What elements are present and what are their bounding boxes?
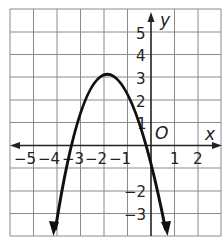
x-tick: 2 (193, 150, 203, 168)
x-tick: −5 (14, 150, 36, 168)
y-tick: 2 (136, 93, 146, 111)
x-axis (10, 142, 222, 149)
y-axis-label: y (159, 10, 171, 30)
grid (10, 9, 221, 236)
x-tick: −2 (85, 150, 107, 168)
y-tick: −2 (124, 183, 146, 201)
x-tick: −3 (62, 150, 84, 168)
y-tick: −3 (124, 206, 146, 224)
right-down-arrow-icon (161, 221, 171, 236)
x-axis-label: x (204, 124, 216, 144)
y-axis (148, 12, 155, 236)
y-axis-up-arrow-icon (148, 12, 155, 22)
y-tick: 5 (136, 25, 146, 43)
x-tick: −1 (109, 150, 131, 168)
coordinate-graph: y x O −5 −4 −3 −2 −1 1 2 5 4 3 2 1 −2 −3 (0, 0, 224, 240)
x-axis-left-arrow-icon (10, 142, 20, 149)
origin-label: O (155, 123, 168, 143)
x-tick: 1 (170, 150, 180, 168)
x-tick-labels: −5 −4 −3 −2 −1 1 2 (14, 150, 203, 168)
x-tick: −4 (38, 150, 60, 168)
y-tick: 3 (136, 70, 146, 88)
y-tick: 4 (136, 47, 146, 65)
